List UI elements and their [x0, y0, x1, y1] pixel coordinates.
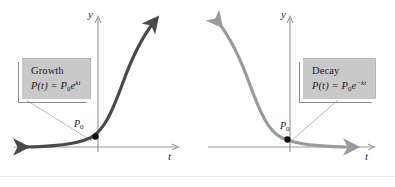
decay-formula-equals: =: [331, 80, 338, 91]
bottom-rule: [0, 176, 395, 177]
p0-label: P0: [280, 120, 290, 133]
y-axis-label: y: [281, 8, 286, 20]
growth-callout-title: Growth: [31, 64, 81, 78]
p0-label-subscript: 0: [80, 123, 84, 131]
t-axis-label: t: [365, 150, 368, 162]
decay-callout-formula: P(t) = P0e−kt: [312, 79, 366, 94]
p0-point-marker: [92, 133, 98, 139]
decay-formula-exponent: −kt: [356, 79, 366, 87]
panel-growth: y t P0 Growth P(t) = P0ekt: [0, 0, 197, 187]
growth-callout-box: Growth P(t) = P0ekt: [22, 58, 91, 99]
y-axis-label: y: [88, 8, 93, 20]
growth-formula-exponent: kt: [75, 79, 80, 87]
p0-label: P0: [74, 118, 84, 131]
decay-callout-title: Decay: [312, 64, 366, 78]
growth-callout-formula: P(t) = P0ekt: [31, 79, 81, 94]
p0-point-marker: [284, 136, 290, 142]
decay-callout-box: Decay P(t) = P0e−kt: [303, 58, 376, 99]
growth-formula-lhs: P(t): [31, 80, 48, 91]
t-axis-label: t: [168, 150, 171, 162]
figure-container: y t P0 Growth P(t) = P0ekt: [0, 0, 395, 187]
p0-label-subscript: 0: [286, 125, 290, 133]
callout-leader-line: [290, 100, 338, 142]
decay-formula-lhs: P(t): [312, 80, 329, 91]
growth-formula-equals: =: [50, 80, 57, 91]
